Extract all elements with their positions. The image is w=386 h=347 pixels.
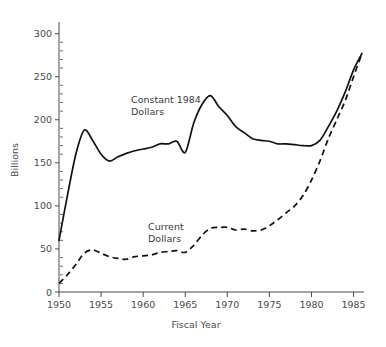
y-tick-label: 300 (34, 28, 52, 39)
annotation-current-dollars-line2: Dollars (148, 233, 181, 244)
series-current-dollars-line (59, 53, 362, 283)
x-tick-label: 1985 (341, 299, 365, 310)
line-chart-canvas: 050100150200250300 195019551960196519701… (0, 0, 386, 347)
x-tick-label: 1980 (299, 299, 323, 310)
annotation-constant-dollars-line2: Dollars (131, 106, 164, 117)
chart-figure: 050100150200250300 195019551960196519701… (0, 0, 386, 347)
y-tick-label: 250 (34, 71, 52, 82)
x-tick-label: 1960 (131, 299, 155, 310)
x-tick-label: 1950 (47, 299, 71, 310)
x-tick-label: 1955 (89, 299, 113, 310)
y-tick-label: 50 (40, 243, 52, 254)
y-tick-label: 100 (34, 200, 52, 211)
x-tick-label: 1975 (257, 299, 281, 310)
annotation-current-dollars-line1: Current (148, 221, 184, 232)
x-axis-ticks: 19501955196019651970197519801985 (47, 292, 366, 310)
series-constant-1984-dollars-line (59, 53, 362, 240)
y-tick-label: 0 (46, 287, 52, 298)
y-tick-label: 200 (34, 114, 52, 125)
y-tick-label: 150 (34, 157, 52, 168)
y-axis-title: Billions (9, 143, 20, 177)
x-axis-title: Fiscal Year (171, 319, 220, 330)
annotation-constant-dollars-line1: Constant 1984 (131, 94, 201, 105)
x-tick-label: 1970 (215, 299, 239, 310)
x-tick-label: 1965 (173, 299, 197, 310)
